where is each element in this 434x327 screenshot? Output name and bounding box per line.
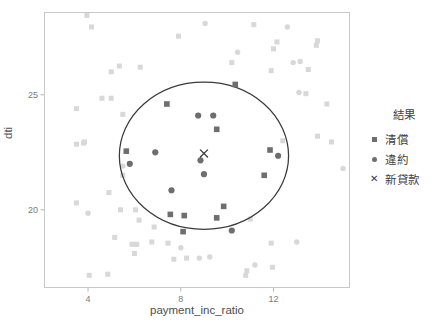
plot-panel	[44, 12, 350, 288]
y-tick-label: 20	[18, 205, 38, 215]
square-marker-icon	[366, 131, 382, 147]
x-tick-label: 8	[178, 294, 183, 304]
y-axis-title: dti	[2, 127, 14, 139]
scatter-plot-figure: 4812 2025 payment_inc_ratio dti 結果 清償 違約…	[0, 0, 434, 327]
y-tick-label: 25	[18, 90, 38, 100]
x-tick-label: 12	[268, 294, 278, 304]
legend-title: 結果	[374, 106, 434, 122]
legend-item-default[interactable]: 違約	[366, 149, 434, 169]
legend-item-label: 清償	[385, 131, 408, 147]
legend-item-label: 違約	[385, 151, 408, 167]
legend-item-new-loan[interactable]: ✕ 新貸款	[366, 169, 434, 189]
legend-item-label: 新貸款	[385, 171, 420, 187]
legend: 結果 清償 違約 ✕ 新貸款	[366, 106, 434, 189]
x-tick-label: 4	[86, 294, 91, 304]
legend-item-repaid[interactable]: 清償	[366, 129, 434, 149]
x-axis-title: payment_inc_ratio	[44, 304, 350, 316]
circle-marker-icon	[366, 151, 382, 167]
cross-marker-icon: ✕	[366, 171, 382, 187]
